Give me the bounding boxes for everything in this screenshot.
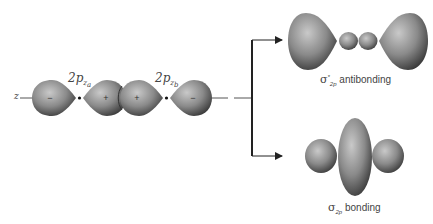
orbital-diagram <box>0 0 433 224</box>
antibonding-label: σ*2p antibonding <box>320 73 391 87</box>
lobe-sign-1: − <box>47 93 52 103</box>
orbital-label-2pza: 2pza <box>68 71 91 90</box>
lobe-sign-2: + <box>103 93 108 103</box>
lobe-sign-4: − <box>190 93 195 103</box>
bonding-orbital-shape <box>305 118 404 196</box>
antibonding-orbital-shape <box>288 13 428 70</box>
orbital-label-2pzb: 2pzb <box>155 71 179 90</box>
bonding-label: σ2p bonding <box>328 201 381 215</box>
lobe-sign-3: + <box>134 93 139 103</box>
nucleus-a-dot <box>78 96 81 99</box>
z-axis-label: z <box>14 91 19 101</box>
nucleus-b-dot <box>165 96 168 99</box>
